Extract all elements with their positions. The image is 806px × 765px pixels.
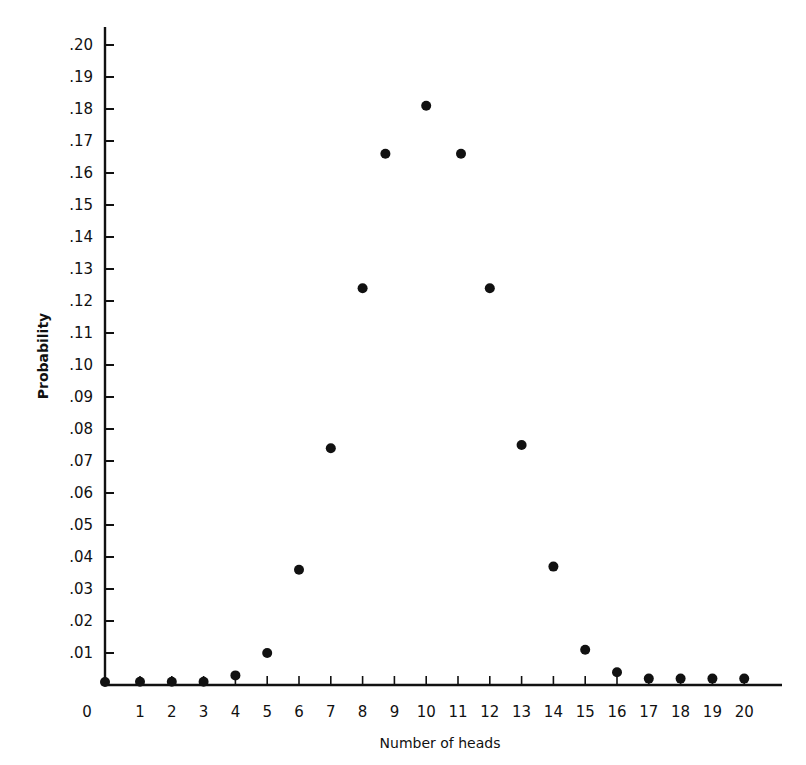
data-point-20 <box>739 674 749 684</box>
y-tick-label: .18 <box>69 100 93 118</box>
data-point-18 <box>676 674 686 684</box>
y-tick-label: .14 <box>69 228 93 246</box>
data-point-19 <box>707 674 717 684</box>
data-point-7 <box>326 443 336 453</box>
data-point-8 <box>358 283 368 293</box>
y-tick-label: .11 <box>69 324 93 342</box>
x-axis-title: Number of heads <box>380 735 501 751</box>
data-point-12 <box>485 283 495 293</box>
y-tick-label: .07 <box>69 452 93 470</box>
y-tick-label: .13 <box>69 260 93 278</box>
data-point-10 <box>421 101 431 111</box>
data-point-16 <box>612 667 622 677</box>
y-tick-label: .02 <box>69 612 93 630</box>
x-tick-label: 3 <box>199 703 209 721</box>
x-tick-label: 9 <box>390 703 400 721</box>
x-tick-label: 13 <box>512 703 531 721</box>
data-point-6 <box>294 565 304 575</box>
y-tick-label: .01 <box>69 644 93 662</box>
x-tick-label: 17 <box>639 703 658 721</box>
x-tick-label: 19 <box>703 703 722 721</box>
x-tick-label: 20 <box>735 703 754 721</box>
data-point-0 <box>100 677 110 687</box>
data-point-3 <box>199 677 209 687</box>
y-tick-label: .16 <box>69 164 93 182</box>
x-tick-label: 7 <box>326 703 336 721</box>
data-point-13 <box>517 440 527 450</box>
x-tick-label: 10 <box>417 703 436 721</box>
x-tick-label: 16 <box>607 703 626 721</box>
x-tick-label: 18 <box>671 703 690 721</box>
x-tick-label: 5 <box>262 703 272 721</box>
y-tick-label: .17 <box>69 132 93 150</box>
x-tick-label: 15 <box>576 703 595 721</box>
x-tick-label: 11 <box>448 703 467 721</box>
data-point-14 <box>548 562 558 572</box>
y-axis: .01.02.03.04.05.06.07.08.09.10.11.12.13.… <box>69 27 114 686</box>
y-tick-label: .19 <box>69 68 93 86</box>
y-tick-label: .09 <box>69 388 93 406</box>
data-point-15 <box>580 645 590 655</box>
data-point-9 <box>380 149 390 159</box>
x-tick-label: 12 <box>480 703 499 721</box>
y-tick-label: .15 <box>69 196 93 214</box>
x-tick-label: 4 <box>231 703 241 721</box>
x-tick-label: 6 <box>294 703 304 721</box>
x-tick-label: 0 <box>82 703 92 721</box>
probability-scatter-chart: .01.02.03.04.05.06.07.08.09.10.11.12.13.… <box>0 0 806 765</box>
data-point-17 <box>644 674 654 684</box>
y-tick-label: .03 <box>69 580 93 598</box>
y-tick-label: .08 <box>69 420 93 438</box>
data-point-1 <box>135 677 145 687</box>
y-axis-title: Probability <box>35 313 51 400</box>
data-point-2 <box>167 677 177 687</box>
y-tick-label: .05 <box>69 516 93 534</box>
data-point-11 <box>456 149 466 159</box>
data-point-4 <box>230 670 240 680</box>
y-tick-label: .20 <box>69 36 93 54</box>
x-tick-label: 14 <box>544 703 563 721</box>
x-axis: 01234567891011121314151617181920 <box>82 676 782 721</box>
x-tick-label: 1 <box>135 703 145 721</box>
data-points <box>100 101 749 687</box>
x-tick-label: 2 <box>167 703 177 721</box>
x-tick-label: 8 <box>358 703 368 721</box>
y-tick-label: .12 <box>69 292 93 310</box>
y-tick-label: .06 <box>69 484 93 502</box>
data-point-5 <box>262 648 272 658</box>
y-tick-label: .10 <box>69 356 93 374</box>
y-tick-label: .04 <box>69 548 93 566</box>
